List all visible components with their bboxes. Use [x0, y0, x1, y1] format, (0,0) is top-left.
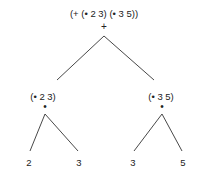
- right-operator: •: [160, 101, 164, 112]
- edge-right-leaf-1: [134, 114, 162, 151]
- root-operator: +: [101, 21, 107, 32]
- tree-canvas: (+ (• 2 3) (• 3 5)) + (• 2 3) • 2 3 (• 3…: [0, 0, 204, 179]
- root-expression: (+ (• 2 3) (• 3 5)): [70, 8, 138, 19]
- edge-left-leaf-2: [45, 114, 78, 151]
- left-operator: •: [43, 101, 47, 112]
- leaf-node: 5: [180, 157, 185, 168]
- leaf-node: 3: [76, 157, 81, 168]
- edge-root-right: [104, 36, 154, 80]
- edge-root-left: [57, 36, 104, 80]
- edge-left-leaf-1: [30, 114, 45, 151]
- expression-tree-diagram: (+ (• 2 3) (• 3 5)) + (• 2 3) • 2 3 (• 3…: [0, 0, 204, 179]
- leaf-node: 2: [26, 157, 31, 168]
- leaf-node: 3: [130, 157, 135, 168]
- edge-right-leaf-2: [162, 114, 182, 151]
